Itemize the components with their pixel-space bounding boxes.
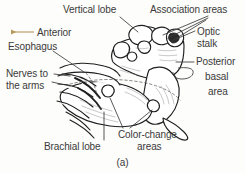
leader-nerves-2 bbox=[52, 82, 70, 86]
label-anterior: Anterior bbox=[37, 27, 71, 39]
label-esophagus: Esophagus bbox=[8, 41, 57, 53]
label-association-areas: Association areas bbox=[150, 4, 227, 16]
leader-vertical-lobe bbox=[120, 17, 138, 32]
label-brachial-lobe: Brachial lobe bbox=[44, 141, 101, 153]
sub-lobe-knob bbox=[127, 52, 137, 61]
label-areas: areas bbox=[137, 141, 162, 153]
label-basal: basal bbox=[205, 71, 228, 83]
label-area: area bbox=[208, 86, 228, 98]
brain-outline-group bbox=[57, 25, 188, 140]
anatomical-figure: Vertical lobe Association areas Anterior… bbox=[0, 0, 245, 173]
color-change-knob-left bbox=[102, 85, 114, 97]
figure-caption: (a) bbox=[0, 157, 245, 168]
label-vertical-lobe: Vertical lobe bbox=[63, 4, 116, 16]
color-change-knob-right bbox=[147, 100, 159, 112]
label-color-change: Color-change bbox=[118, 129, 177, 141]
label-nerves-to-the-arms: Nerves to the arms bbox=[6, 68, 48, 91]
label-posterior: Posterior bbox=[196, 56, 235, 68]
central-lobe-knob bbox=[138, 41, 151, 53]
label-optic-stalk: Optic stalk bbox=[197, 26, 220, 49]
